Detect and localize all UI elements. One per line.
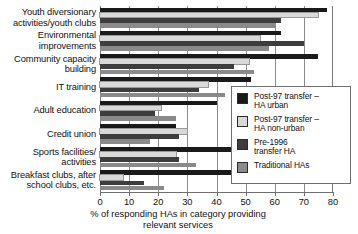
bar <box>100 111 155 116</box>
x-axis-tick-label: 60 <box>263 197 287 208</box>
bar <box>100 129 187 134</box>
category-label: Environmentalimprovements <box>0 30 96 51</box>
legend-item[interactable]: Pre-1996transfer HA <box>237 138 349 160</box>
category-label-line: Breakfast clubs, after <box>0 170 96 180</box>
x-axis-tick <box>246 192 247 196</box>
category-label-line: Community capacity <box>0 54 96 64</box>
legend-swatch-icon <box>237 93 248 104</box>
bar <box>100 77 251 82</box>
x-axis-title-line2: relevant services <box>38 220 318 231</box>
category-label: Sports facilities/activities <box>0 147 96 168</box>
category-label-line: building <box>0 64 96 74</box>
legend-label-line: HA urban <box>254 101 319 110</box>
bar <box>100 124 176 129</box>
x-axis-tick-label: 50 <box>234 197 258 208</box>
bar <box>100 106 161 111</box>
bar <box>100 170 231 175</box>
bar <box>100 139 150 144</box>
x-axis-tick <box>129 192 130 196</box>
legend-label-line: transfer HA <box>254 147 295 156</box>
x-axis-tick <box>217 192 218 196</box>
bar <box>100 8 327 13</box>
bar <box>100 70 254 75</box>
category-label-line: improvements <box>0 41 96 51</box>
bar <box>100 82 208 87</box>
bar <box>100 181 144 186</box>
chart-legend: Post-97 transfer –HA urbanPost-97 transf… <box>231 86 351 184</box>
category-label-line: Environmental <box>0 30 96 40</box>
bar <box>100 31 281 36</box>
legend-item[interactable]: Post-97 transfer –HA non-urban <box>237 115 349 137</box>
legend-item[interactable]: Post-97 transfer –HA urban <box>237 92 349 114</box>
category-label-line: school clubs, etc. <box>0 180 96 190</box>
x-axis-title-line1: % of responding HAs in category providin… <box>38 209 318 220</box>
legend-swatch-icon <box>237 139 248 150</box>
bar-group <box>100 53 333 76</box>
bar <box>100 186 164 191</box>
category-label: IT training <box>0 82 96 92</box>
category-axis-labels: Youth diversionaryactivities/youth clubs… <box>0 6 98 192</box>
bar <box>100 54 318 59</box>
legend-label: Traditional HAs <box>254 161 309 170</box>
x-axis-tick-label: 20 <box>146 197 170 208</box>
bar <box>100 116 176 121</box>
bar <box>100 152 176 157</box>
category-label-line: IT training <box>0 82 96 92</box>
bar <box>100 13 318 18</box>
bar <box>100 157 179 162</box>
category-label-line: activities/youth clubs <box>0 18 96 28</box>
x-axis-tick-label: 70 <box>292 197 316 208</box>
legend-swatch-icon <box>237 162 248 173</box>
legend-label-line: Traditional HAs <box>254 161 309 170</box>
x-axis-tick <box>158 192 159 196</box>
legend-label-line: HA non-urban <box>254 124 319 133</box>
x-axis-tick <box>100 192 101 196</box>
bar <box>100 18 281 23</box>
bar <box>100 36 260 41</box>
legend-swatch-icon <box>237 116 248 127</box>
bar-chart: Youth diversionaryactivities/youth clubs… <box>0 0 358 234</box>
bar <box>100 163 196 168</box>
bar <box>100 147 240 152</box>
bar-group <box>100 6 333 29</box>
x-axis-tick <box>187 192 188 196</box>
bar <box>100 59 249 64</box>
bar-group <box>100 29 333 52</box>
bar <box>100 41 304 46</box>
x-axis-tick <box>275 192 276 196</box>
x-axis-tick-label: 10 <box>117 197 141 208</box>
category-label: Adult education <box>0 105 96 115</box>
bar <box>100 175 123 180</box>
category-label-line: Youth diversionary <box>0 7 96 17</box>
bar <box>100 46 269 51</box>
bar <box>100 134 179 139</box>
category-label-line: Sports facilities/ <box>0 147 96 157</box>
bar <box>100 88 199 93</box>
category-label: Credit union <box>0 129 96 139</box>
category-label-line: Credit union <box>0 129 96 139</box>
x-axis-tick-label: 30 <box>175 197 199 208</box>
x-axis-tick <box>333 192 334 196</box>
bar <box>100 101 217 106</box>
legend-label: Post-97 transfer –HA non-urban <box>254 115 319 134</box>
x-axis-tick-label: 40 <box>205 197 229 208</box>
x-axis-tick-label: 80 <box>321 197 345 208</box>
category-label-line: activities <box>0 157 96 167</box>
bar <box>100 23 275 28</box>
category-label-line: Adult education <box>0 105 96 115</box>
legend-label: Post-97 transfer –HA urban <box>254 92 319 111</box>
x-axis-tick-label: 0 <box>88 197 112 208</box>
x-axis-title: % of responding HAs in category providin… <box>38 209 318 230</box>
legend-item[interactable]: Traditional HAs <box>237 161 349 183</box>
x-axis-tick <box>304 192 305 196</box>
category-label: Youth diversionaryactivities/youth clubs <box>0 7 96 28</box>
bar <box>100 64 234 69</box>
category-label: Community capacitybuilding <box>0 54 96 75</box>
bar <box>100 93 225 98</box>
category-label: Breakfast clubs, afterschool clubs, etc. <box>0 170 96 191</box>
legend-label: Pre-1996transfer HA <box>254 138 295 157</box>
